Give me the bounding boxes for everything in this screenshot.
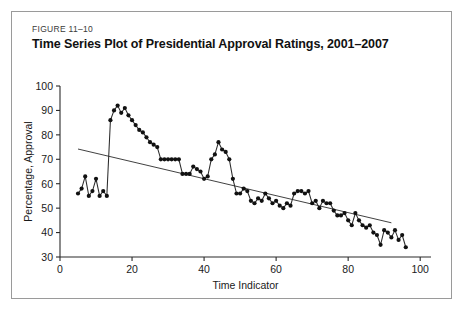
data-point — [324, 201, 328, 205]
data-point — [375, 233, 379, 237]
data-point — [231, 177, 235, 181]
data-point — [227, 157, 231, 161]
data-point — [126, 113, 130, 117]
y-tick-label: 50 — [41, 202, 53, 214]
x-tick-label: 20 — [126, 263, 138, 275]
data-point — [130, 118, 134, 122]
approval-ratings-line-chart: 30405060708090100 020406080100 Percentag… — [12, 12, 453, 300]
data-point — [184, 172, 188, 176]
x-tick-label: 60 — [270, 263, 282, 275]
data-point — [155, 145, 159, 149]
x-tick-label: 100 — [411, 263, 429, 275]
data-point — [195, 167, 199, 171]
data-point — [162, 157, 166, 161]
y-tick-label: 30 — [41, 251, 53, 263]
data-point — [105, 194, 109, 198]
data-point — [209, 157, 213, 161]
chart-plot-area: 30405060708090100 020406080100 Percentag… — [12, 12, 453, 300]
data-point — [270, 201, 274, 205]
data-point — [94, 177, 98, 181]
data-point — [224, 150, 228, 154]
data-point — [360, 223, 364, 227]
data-point — [112, 108, 116, 112]
data-point — [393, 228, 397, 232]
data-point — [234, 191, 238, 195]
data-point — [371, 230, 375, 234]
data-point — [350, 223, 354, 227]
y-axis: 30405060708090100 — [35, 80, 60, 263]
data-point — [382, 228, 386, 232]
data-point — [191, 165, 195, 169]
data-point-markers — [76, 103, 408, 249]
data-point — [116, 103, 120, 107]
y-tick-label: 90 — [41, 104, 53, 116]
data-point — [177, 157, 181, 161]
data-point — [285, 201, 289, 205]
data-point — [389, 235, 393, 239]
data-point — [310, 201, 314, 205]
data-point — [98, 194, 102, 198]
x-tick-label: 80 — [342, 263, 354, 275]
data-point — [278, 204, 282, 208]
data-point — [170, 157, 174, 161]
data-point — [90, 189, 94, 193]
data-point — [108, 118, 112, 122]
data-point — [87, 194, 91, 198]
data-point — [357, 218, 361, 222]
data-point — [245, 189, 249, 193]
y-tick-label: 70 — [41, 153, 53, 165]
data-point — [342, 211, 346, 215]
data-point — [281, 206, 285, 210]
data-point — [314, 199, 318, 203]
data-point — [134, 123, 138, 127]
data-series-line — [78, 106, 406, 248]
data-point — [137, 128, 141, 132]
data-point — [353, 211, 357, 215]
data-point — [321, 199, 325, 203]
data-point — [123, 106, 127, 110]
data-point — [260, 199, 264, 203]
y-tick-label: 40 — [41, 226, 53, 238]
data-point — [364, 226, 368, 230]
data-point — [76, 191, 80, 195]
data-point — [252, 201, 256, 205]
data-point — [173, 157, 177, 161]
data-point — [328, 201, 332, 205]
data-point — [339, 213, 343, 217]
data-point — [267, 196, 271, 200]
data-point — [152, 143, 156, 147]
data-point — [198, 169, 202, 173]
data-point — [148, 140, 152, 144]
data-point — [299, 189, 303, 193]
y-tick-label: 100 — [35, 80, 53, 92]
data-point — [303, 191, 307, 195]
data-point — [119, 111, 123, 115]
y-tick-label: 80 — [41, 129, 53, 141]
data-point — [378, 243, 382, 247]
data-point — [213, 152, 217, 156]
data-point — [332, 208, 336, 212]
data-point — [256, 196, 260, 200]
data-point — [288, 204, 292, 208]
y-tick-label: 60 — [41, 178, 53, 190]
data-point — [263, 191, 267, 195]
data-point — [159, 157, 163, 161]
data-point — [296, 189, 300, 193]
data-point — [396, 238, 400, 242]
data-point — [292, 191, 296, 195]
data-point — [80, 187, 84, 191]
data-point — [400, 233, 404, 237]
data-point — [306, 189, 310, 193]
data-point — [274, 199, 278, 203]
data-point — [180, 172, 184, 176]
data-point — [188, 172, 192, 176]
data-point — [141, 130, 145, 134]
x-axis: 020406080100 — [57, 257, 431, 275]
data-point — [166, 157, 170, 161]
data-point — [249, 199, 253, 203]
figure-card: FIGURE 11–10 Time Series Plot of Preside… — [11, 11, 452, 299]
data-point — [404, 245, 408, 249]
x-tick-label: 40 — [198, 263, 210, 275]
y-axis-title: Percentage, Approval — [22, 121, 34, 221]
data-point — [386, 230, 390, 234]
